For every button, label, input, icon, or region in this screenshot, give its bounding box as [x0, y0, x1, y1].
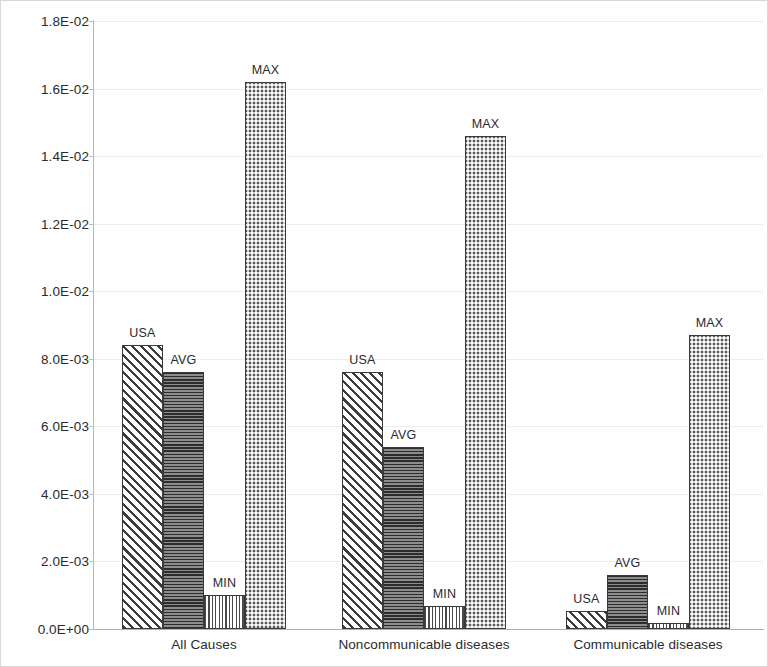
y-axis-tick-label: 1.8E-02 — [5, 14, 89, 29]
x-axis-category-label-2: Communicable diseases — [573, 637, 722, 652]
bar-max-group-1 — [465, 136, 506, 629]
y-axis-tickmark — [89, 156, 94, 157]
bar-avg-group-2 — [607, 575, 648, 629]
bar-label-avg-group-0: AVG — [170, 353, 196, 367]
bar-avg-group-1 — [383, 447, 424, 629]
bar-avg-group-0 — [163, 372, 204, 629]
bar-max-group-0 — [245, 82, 286, 629]
y-axis-tick-label: 2.0E-03 — [5, 554, 89, 569]
bar-usa-group-0 — [122, 345, 163, 629]
bar-label-max-group-2: MAX — [696, 316, 724, 330]
y-axis-tick-label: 1.0E-02 — [5, 284, 89, 299]
x-axis-category-label-1: Noncommunicable diseases — [338, 637, 509, 652]
bar-usa-group-2 — [566, 611, 607, 629]
gridline — [94, 21, 763, 22]
y-axis-tickmark — [89, 629, 94, 630]
y-axis-tick-label: 1.2E-02 — [5, 216, 89, 231]
bar-label-min-group-2: MIN — [657, 604, 681, 618]
y-axis-tickmark — [89, 561, 94, 562]
x-axis-line — [93, 629, 764, 630]
y-axis-tickmark — [89, 494, 94, 495]
bar-min-group-0 — [204, 595, 245, 629]
y-axis-tickmark — [89, 21, 94, 22]
gridline — [94, 291, 763, 292]
y-axis-line — [93, 20, 94, 630]
bar-label-max-group-0: MAX — [252, 63, 280, 77]
y-axis-tick-label: 0.0E+00 — [5, 622, 89, 637]
bar-label-usa-group-0: USA — [129, 326, 155, 340]
bar-label-avg-group-2: AVG — [614, 556, 640, 570]
y-axis-tick-label: 8.0E-03 — [5, 351, 89, 366]
bar-label-usa-group-2: USA — [573, 592, 599, 606]
y-axis-tick-label: 4.0E-03 — [5, 486, 89, 501]
bar-label-min-group-0: MIN — [213, 576, 237, 590]
plot-area: USAAVGMINMAXUSAAVGMINMAXUSAAVGMINMAX — [94, 21, 763, 629]
y-axis-tick-label: 1.6E-02 — [5, 81, 89, 96]
y-axis-tickmark — [89, 426, 94, 427]
bar-usa-group-1 — [342, 372, 383, 629]
gridline — [94, 224, 763, 225]
gridline — [94, 156, 763, 157]
y-axis-labels: 0.0E+002.0E-034.0E-036.0E-038.0E-031.0E-… — [1, 21, 89, 629]
gridline — [94, 89, 763, 90]
y-axis-tickmark — [89, 359, 94, 360]
bar-min-group-1 — [424, 606, 465, 629]
y-axis-tick-label: 6.0E-03 — [5, 419, 89, 434]
bar-label-max-group-1: MAX — [472, 117, 500, 131]
y-axis-tickmark — [89, 224, 94, 225]
y-axis-tickmark — [89, 89, 94, 90]
bar-label-usa-group-1: USA — [349, 353, 375, 367]
bar-label-avg-group-1: AVG — [390, 428, 416, 442]
bar-label-min-group-1: MIN — [433, 587, 457, 601]
y-axis-tick-label: 1.4E-02 — [5, 149, 89, 164]
bar-max-group-2 — [689, 335, 730, 629]
x-axis-category-label-0: All Causes — [171, 637, 237, 652]
bar-chart: 0.0E+002.0E-034.0E-036.0E-038.0E-031.0E-… — [0, 0, 768, 667]
y-axis-tickmark — [89, 291, 94, 292]
